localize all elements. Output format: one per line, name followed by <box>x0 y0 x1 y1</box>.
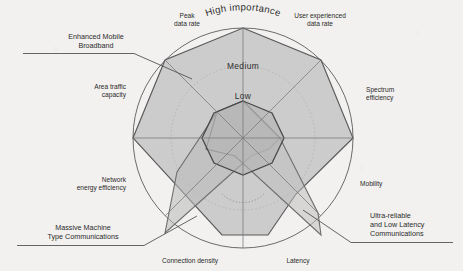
callout-urllc[interactable]: Ultra-reliable and Low Latency Communica… <box>303 210 453 243</box>
axis-label-network-energy-efficiency-l1: Network <box>102 176 127 183</box>
callout-urllc-line3: Communications <box>370 229 424 238</box>
axis-label-spectrum-efficiency-l2: efficiency <box>366 94 394 102</box>
callout-mmtc-line2: Type Communications <box>47 232 119 241</box>
axis-label-peak-data-rate-l1: Peak <box>179 12 195 19</box>
axis-label-user-experienced-data-rate-l1: User experienced <box>294 12 346 20</box>
callout-urllc-line2: and Low Latency <box>370 220 425 229</box>
figure-canvas: High importance Medium Low Peak data rat… <box>0 0 463 271</box>
arc-label-high-importance: High importance <box>204 1 283 18</box>
axis-label-network-energy-efficiency-l2: energy efficiency <box>77 184 127 192</box>
axis-label-spectrum-efficiency-l1: Spectrum <box>366 86 395 94</box>
axis-label-mobility: Mobility <box>360 180 383 188</box>
axis-label-connection-density: Connection density <box>162 257 219 265</box>
axis-label-peak-data-rate-l2: data rate <box>174 20 200 27</box>
axis-label-latency: Latency <box>286 257 310 265</box>
callout-urllc-line1: Ultra-reliable <box>370 211 411 220</box>
callout-embb-line1: Enhanced Mobile <box>68 32 124 41</box>
ring-label-medium: Medium <box>227 61 259 71</box>
callout-mmtc-line1: Massive Machine <box>55 223 111 232</box>
radar-chart: High importance Medium Low Peak data rat… <box>0 0 463 271</box>
axis-label-area-traffic-capacity-l2: capacity <box>102 91 127 99</box>
ring-label-low: Low <box>235 91 252 101</box>
axis-label-user-experienced-data-rate-l2: data rate <box>307 20 333 27</box>
axis-label-area-traffic-capacity-l1: Area traffic <box>94 83 126 90</box>
callout-embb-line2: Broadband <box>78 41 113 50</box>
